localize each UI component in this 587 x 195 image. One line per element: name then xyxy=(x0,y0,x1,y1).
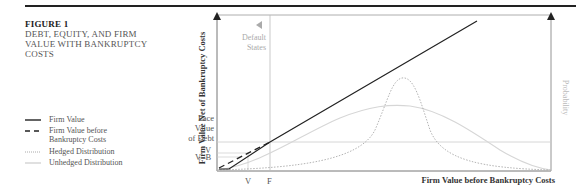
default-states-arrow-icon xyxy=(256,21,262,29)
chart-plot xyxy=(0,0,587,195)
y2-axis-arrow-icon xyxy=(547,12,555,20)
annotation-line: Face xyxy=(170,113,214,123)
annotation-line: Value xyxy=(170,123,214,133)
annotation-line: Default xyxy=(220,33,266,43)
y-axis-arrow-icon xyxy=(213,12,221,20)
x-tick-f: F xyxy=(267,176,272,186)
annotation-line: of Debt xyxy=(170,133,214,143)
x-tick-v: V xyxy=(245,176,251,186)
default-states-annotation: Default States xyxy=(220,33,266,53)
y2-axis-label: Probability xyxy=(561,58,570,138)
y-tick-vb: V–B xyxy=(195,152,211,162)
unhedged-distribution-curve xyxy=(217,105,551,170)
hedged-distribution-curve xyxy=(217,78,551,170)
face-value-annotation: Face Value of Debt xyxy=(170,113,214,143)
annotation-line: States xyxy=(220,43,266,53)
x-axis-label: Firm Value before Bankruptcy Costs xyxy=(390,175,555,185)
